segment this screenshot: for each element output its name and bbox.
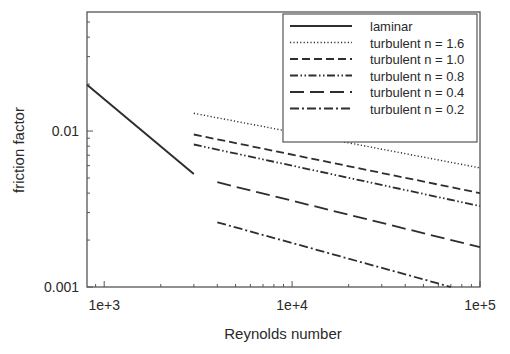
x-axis-ticks: 1e+31e+41e+5 xyxy=(88,281,496,313)
legend-label: turbulent n = 1.6 xyxy=(370,36,464,51)
legend-label: turbulent n = 0.2 xyxy=(370,102,464,117)
x-axis-label: Reynolds number xyxy=(224,325,342,342)
legend: laminarturbulent n = 1.6turbulent n = 1.… xyxy=(283,14,477,142)
series-line xyxy=(87,85,194,174)
x-tick-label: 1e+4 xyxy=(276,297,308,313)
series-line xyxy=(194,145,480,207)
friction-factor-chart: 1e+31e+41e+5 0.0010.01 Reynolds number f… xyxy=(0,0,510,354)
legend-label: laminar xyxy=(370,19,413,34)
y-axis-label: friction factor xyxy=(10,107,27,193)
y-tick-label: 0.01 xyxy=(52,123,79,139)
series-line xyxy=(217,182,480,247)
series-line xyxy=(194,135,480,194)
legend-label: turbulent n = 0.8 xyxy=(370,69,464,84)
x-tick-label: 1e+3 xyxy=(88,297,120,313)
legend-label: turbulent n = 0.4 xyxy=(370,85,464,100)
legend-label: turbulent n = 1.0 xyxy=(370,52,464,67)
y-tick-label: 0.001 xyxy=(44,279,79,295)
y-axis-ticks: 0.0010.01 xyxy=(44,22,93,295)
x-tick-label: 1e+5 xyxy=(464,297,496,313)
